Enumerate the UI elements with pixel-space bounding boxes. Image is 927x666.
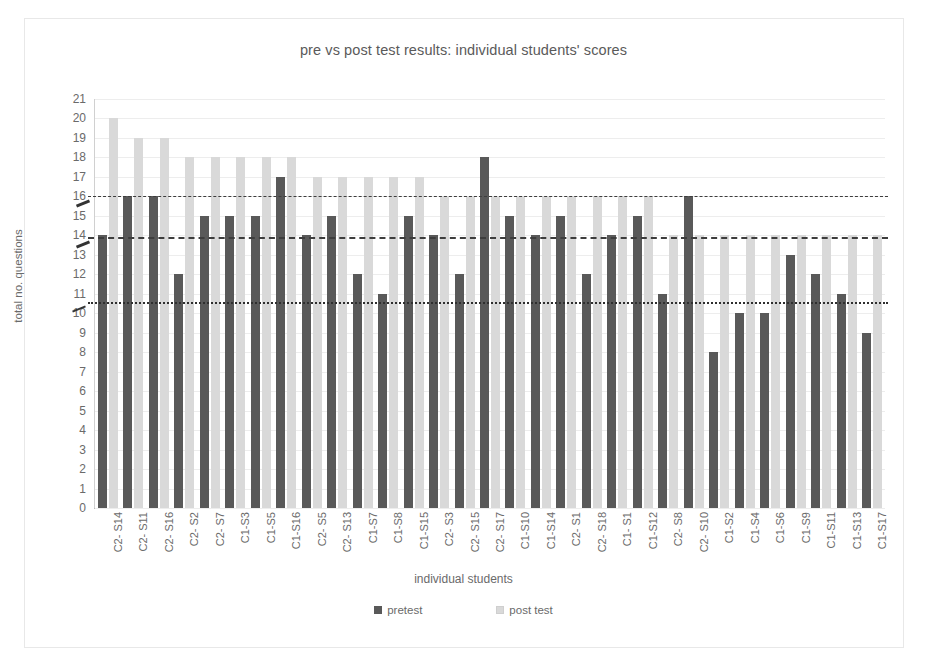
bar-posttest (491, 196, 500, 508)
bar-posttest (262, 157, 271, 508)
y-tick-15: 15 (44, 210, 86, 222)
x-tick-C1-S11: C1-S11 (825, 512, 837, 548)
gridline (95, 99, 885, 100)
y-tick-1: 1 (44, 483, 86, 495)
bar-pretest (276, 177, 285, 508)
legend-label-pretest: pretest (387, 604, 422, 616)
bar-posttest (516, 196, 525, 508)
bar-pretest (404, 216, 413, 508)
x-tick-C2-S14: C2- S14 (112, 512, 124, 552)
bar-pretest (709, 352, 718, 508)
bar-posttest (644, 196, 653, 508)
x-tick-C2-S7: C2- S7 (214, 512, 226, 546)
y-tick-14: 14 (44, 229, 86, 241)
x-tick-C1-S16: C1-S16 (290, 512, 302, 549)
legend-item-posttest[interactable]: post test (496, 604, 552, 616)
bar-posttest (542, 196, 551, 508)
y-tick-21: 21 (44, 93, 86, 105)
y-tick-20: 20 (44, 112, 86, 124)
y-tick-9: 9 (44, 327, 86, 339)
bar-posttest (160, 138, 169, 508)
reference-line-pre-test-mean-upper (88, 237, 888, 239)
y-tick-0: 0 (44, 502, 86, 514)
x-tick-C1-S13: C1-S13 (851, 512, 863, 549)
bar-posttest (236, 157, 245, 508)
bar-posttest (440, 196, 449, 508)
y-tick-17: 17 (44, 171, 86, 183)
x-tick-C1-S8: C1-S8 (392, 512, 404, 543)
bar-pretest (429, 235, 438, 508)
bar-pretest (633, 216, 642, 508)
bar-pretest (225, 216, 234, 508)
bar-posttest (313, 177, 322, 508)
legend-item-pretest[interactable]: pretest (374, 604, 422, 616)
bar-posttest (797, 235, 806, 508)
bar-posttest (746, 235, 755, 508)
y-tick-18: 18 (44, 151, 86, 163)
x-tick-C2-S2: C2- S2 (188, 512, 200, 546)
bar-posttest (873, 235, 882, 508)
reference-line-pre-test-mean-lower (88, 302, 888, 304)
bar-pretest (123, 196, 132, 508)
bar-posttest (618, 196, 627, 508)
bar-posttest (466, 196, 475, 508)
bar-pretest (862, 333, 871, 508)
x-tick-C2-S11: C2- S11 (137, 512, 149, 552)
y-tick-7: 7 (44, 366, 86, 378)
bar-posttest (593, 196, 602, 508)
x-tick-C1-S15: C1-S15 (418, 512, 430, 549)
bar-posttest (695, 235, 704, 508)
x-tick-C2-S13: C2- S13 (341, 512, 353, 552)
x-tick-C2-S18: C2- S18 (596, 512, 608, 552)
bar-posttest (109, 118, 118, 508)
x-tick-C2-S8: C2- S8 (672, 512, 684, 546)
x-tick-C1-S10: C1-S10 (519, 512, 531, 549)
gridline (95, 508, 885, 509)
x-tick-C1-S5: C1-S5 (265, 512, 277, 543)
bar-pretest (251, 216, 260, 508)
bar-pretest (786, 255, 795, 508)
x-tick-C1-S6: C1-S6 (774, 512, 786, 543)
bar-posttest (848, 235, 857, 508)
x-tick-C1-S2: C1-S2 (723, 512, 735, 543)
x-tick-C1-S14: C1-S14 (545, 512, 557, 549)
legend-swatch-pretest-icon (374, 606, 382, 614)
y-tick-13: 13 (44, 249, 86, 261)
x-tick-C2-S16: C2- S16 (163, 512, 175, 552)
bar-pretest (531, 235, 540, 508)
y-tick-12: 12 (44, 268, 86, 280)
x-tick-C2-S10: C2- S10 (698, 512, 710, 552)
y-tick-11: 11 (44, 288, 86, 300)
bar-pretest (455, 274, 464, 508)
bar-pretest (658, 294, 667, 508)
bar-pretest (149, 196, 158, 508)
bar-posttest (567, 196, 576, 508)
chart-container: pre vs post test results: individual stu… (0, 0, 927, 666)
x-tick-C2-S1: C2- S1 (570, 512, 582, 546)
bar-pretest (837, 294, 846, 508)
y-tick-5: 5 (44, 405, 86, 417)
x-tick-C1-S7: C1-S7 (367, 512, 379, 543)
bar-pretest (607, 235, 616, 508)
bar-posttest (338, 177, 347, 508)
bar-pretest (582, 274, 591, 508)
y-tick-2: 2 (44, 463, 86, 475)
gridline (95, 118, 885, 119)
x-tick-C1-S12: C1-S12 (647, 512, 659, 549)
bar-pretest (480, 157, 489, 508)
y-tick-3: 3 (44, 444, 86, 456)
bar-pretest (811, 274, 820, 508)
bar-posttest (287, 157, 296, 508)
bar-pretest (378, 294, 387, 508)
bar-posttest (185, 157, 194, 508)
bar-posttest (669, 235, 678, 508)
bar-pretest (200, 216, 209, 508)
bar-pretest (760, 313, 769, 508)
bar-posttest (720, 235, 729, 508)
y-axis-title: total no. questions (12, 196, 24, 356)
y-tick-4: 4 (44, 424, 86, 436)
y-tick-6: 6 (44, 385, 86, 397)
bar-posttest (134, 138, 143, 508)
legend-label-posttest: post test (509, 604, 552, 616)
bar-posttest (389, 177, 398, 508)
